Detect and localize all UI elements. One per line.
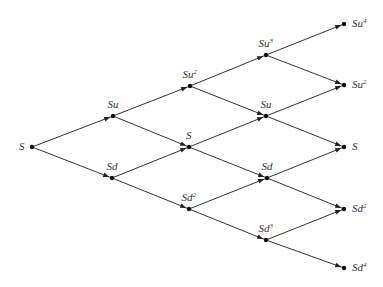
arrowhead-icon bbox=[177, 148, 186, 152]
tree-node-n3_2 bbox=[265, 176, 269, 180]
arrowhead-icon bbox=[254, 111, 263, 115]
arrowhead-icon bbox=[332, 80, 341, 84]
node-label: Su2 bbox=[183, 69, 198, 80]
tree-node-n2_0 bbox=[188, 84, 192, 88]
tree-node-n4_3 bbox=[342, 207, 346, 211]
arrowhead-icon bbox=[332, 142, 341, 146]
node-label: Su4 bbox=[352, 18, 367, 29]
tree-node-n0_0 bbox=[30, 145, 34, 149]
tree-node-n3_3 bbox=[264, 238, 268, 242]
arrowhead-icon bbox=[332, 148, 341, 152]
node-label: Sd3 bbox=[259, 223, 274, 234]
node-label: S bbox=[186, 130, 192, 141]
arrowhead-icon bbox=[254, 56, 263, 60]
node-label: Sd bbox=[107, 161, 118, 172]
node-label: Sd2 bbox=[182, 192, 197, 203]
tree-node-n3_0 bbox=[264, 53, 268, 57]
arrowhead-icon bbox=[101, 117, 110, 121]
arrowhead-icon bbox=[254, 117, 263, 121]
tree-node-n3_1 bbox=[264, 114, 268, 118]
arrowhead-icon bbox=[255, 173, 264, 177]
arrowhead-icon bbox=[332, 25, 341, 29]
arrowhead-icon bbox=[254, 235, 263, 239]
node-label: S bbox=[352, 141, 358, 152]
tree-edge bbox=[32, 116, 113, 147]
node-label: Su bbox=[108, 99, 119, 110]
tree-node-n4_2 bbox=[342, 145, 346, 149]
arrowhead-icon bbox=[178, 87, 187, 91]
nodes-group bbox=[30, 22, 346, 270]
arrowhead-icon bbox=[332, 86, 341, 90]
node-label: Sd bbox=[262, 161, 273, 172]
binomial-tree-diagram bbox=[0, 0, 383, 287]
arrowhead-icon bbox=[332, 264, 341, 267]
arrowhead-icon bbox=[177, 204, 186, 208]
tree-node-n2_1 bbox=[187, 145, 191, 149]
tree-node-n4_1 bbox=[342, 83, 346, 87]
arrowhead-icon bbox=[255, 179, 264, 183]
tree-node-n1_0 bbox=[111, 114, 115, 118]
tree-node-n2_2 bbox=[187, 207, 191, 211]
node-label: Sd2 bbox=[352, 203, 367, 214]
node-label: S bbox=[19, 141, 25, 152]
node-label: Su3 bbox=[259, 38, 274, 49]
tree-node-n1_1 bbox=[110, 176, 114, 180]
node-label: Su bbox=[261, 99, 272, 110]
node-label: Sd4 bbox=[352, 262, 367, 273]
tree-node-n4_0 bbox=[342, 22, 346, 26]
node-label: Su2 bbox=[352, 79, 367, 90]
arrowhead-icon bbox=[100, 173, 109, 177]
tree-node-n4_4 bbox=[342, 266, 346, 270]
arrowhead-icon bbox=[177, 142, 186, 146]
arrowhead-icon bbox=[332, 210, 341, 214]
arrowhead-icon bbox=[332, 204, 341, 208]
